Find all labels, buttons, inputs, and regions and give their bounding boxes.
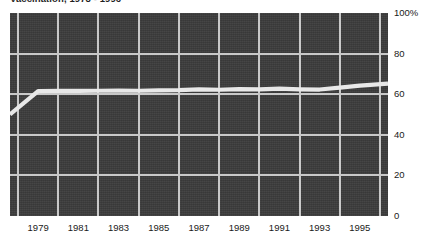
- x-axis-tick-1989: 1989: [229, 222, 250, 233]
- plot-area: [10, 13, 388, 216]
- y-axis-tick-20: 20: [394, 170, 405, 180]
- x-axis-tick-1983: 1983: [108, 222, 129, 233]
- x-axis-tick-1985: 1985: [148, 222, 169, 233]
- y-axis-tick-100: 100%: [394, 8, 418, 18]
- y-axis-tick-60: 60: [394, 89, 405, 99]
- x-axis-tick-1987: 1987: [188, 222, 209, 233]
- x-axis-tick-1981: 1981: [68, 222, 89, 233]
- y-axis-tick-80: 80: [394, 49, 405, 59]
- x-axis-tick-1995: 1995: [349, 222, 370, 233]
- data-series-layer: [10, 13, 388, 216]
- x-axis-tick-1993: 1993: [309, 222, 330, 233]
- y-axis-tick-40: 40: [394, 130, 405, 140]
- y-axis-tick-0: 0: [394, 211, 399, 221]
- data-line-coverage: [10, 84, 388, 115]
- x-axis-tick-1979: 1979: [28, 222, 49, 233]
- chart-title: Vaccination, 1978 - 1996: [10, 0, 121, 4]
- x-axis-tick-1991: 1991: [269, 222, 290, 233]
